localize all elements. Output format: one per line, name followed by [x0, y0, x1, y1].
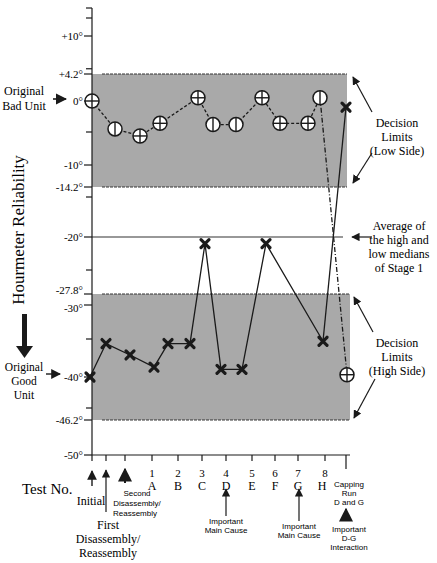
x-tick-letter: E — [248, 479, 255, 493]
low-limits-arrow-down-icon — [353, 153, 372, 183]
bad-unit-point — [255, 91, 269, 105]
first-label-2: Disassembly/ — [76, 532, 141, 546]
average-label-2: the high and — [369, 233, 428, 247]
high-limits-arrow-down-icon — [354, 379, 375, 418]
bad-unit-point — [273, 116, 287, 130]
first-label-3: Reassembly — [79, 546, 137, 560]
capping-label-3: D and G — [334, 498, 364, 507]
second-label-3: Reassembly — [113, 509, 157, 518]
capping-label-2: Run — [342, 489, 357, 498]
x-tick-number: 4 — [223, 467, 229, 479]
x-tick-letter: H — [318, 479, 327, 493]
y-tick-label: +4.2° — [59, 68, 83, 80]
good-unit-label-1: Original — [5, 361, 43, 374]
y-tick-labels: +10°+4.2°0°-10°-14.2°-20°-27.8°-30°-40°-… — [56, 30, 83, 461]
second-label-1: Second — [123, 489, 150, 498]
y-tick-label: -46.2° — [56, 414, 83, 426]
bad-unit-point — [153, 116, 167, 130]
bad-unit-point — [340, 368, 354, 382]
down-arrow-icon — [16, 314, 33, 358]
dg-interaction-label-1: Important — [332, 525, 367, 534]
bad-unit-label-2: Bad Unit — [2, 99, 46, 113]
y-tick-label: 0° — [73, 95, 83, 107]
x-tick-labels: 1A2B3C4D5E6F7G8H — [148, 467, 329, 493]
x-tick-letter: C — [198, 479, 206, 493]
y-tick-label: -50° — [64, 449, 83, 461]
main-cause-g-label-2: Main Cause — [278, 531, 321, 540]
dg-interaction-label-2: D-G — [342, 534, 357, 543]
bad-unit-point — [133, 129, 147, 143]
bad-unit-point — [206, 118, 220, 132]
high-limits-label-2: Limits — [381, 350, 413, 364]
y-tick-label: -30° — [64, 302, 83, 314]
x-tick-letter: F — [272, 479, 279, 493]
x-tick-number: 6 — [272, 467, 278, 479]
test-no-label: Test No. — [22, 481, 73, 497]
good-unit-label-2: Good — [11, 375, 37, 387]
y-tick-label: -27.8° — [56, 284, 83, 296]
high-limits-label-1: Decision — [376, 336, 419, 350]
dg-interaction-label-3: Interaction — [330, 543, 367, 552]
main-cause-g-label-1: Important — [282, 522, 317, 531]
average-label-1: Average of — [373, 219, 426, 233]
y-tick-label: -40° — [64, 371, 83, 383]
average-label-4: of Stage 1 — [375, 261, 424, 275]
low-limits-label-1: Decision — [376, 116, 419, 130]
first-label-1: First — [97, 518, 120, 532]
y-tick-label: -14.2° — [56, 181, 83, 193]
low-limits-arrow-up-icon — [353, 77, 372, 112]
x-tick-number: 1 — [149, 467, 155, 479]
low-limits-label-3: (Low Side) — [370, 144, 424, 158]
bad-unit-point — [85, 94, 99, 108]
x-tick-number: 7 — [295, 467, 301, 479]
high-limits-arrow-up-icon — [354, 297, 373, 332]
capping-label-1: Capping — [334, 480, 364, 489]
main-cause-d-label-1: Important — [209, 517, 244, 526]
main-cause-d-label-2: Main Cause — [205, 526, 248, 535]
hourmeter-reliability-chart: +10°+4.2°0°-10°-14.2°-20°-27.8°-30°-40°-… — [0, 0, 437, 563]
high-limits-label-3: (High Side) — [369, 364, 425, 378]
bad-unit-point — [301, 116, 315, 130]
bad-unit-point — [313, 91, 327, 105]
y-tick-label: -20° — [64, 231, 83, 243]
y-axis-label: Hourmeter Reliability — [9, 155, 28, 305]
bad-unit-label-1: Original — [4, 84, 45, 98]
second-label-2: Disassembly/ — [113, 499, 161, 508]
low-limits-label-2: Limits — [381, 130, 413, 144]
x-tick-letter: B — [174, 479, 182, 493]
bad-unit-point — [229, 118, 243, 132]
bad-unit-point — [191, 91, 205, 105]
x-tick-number: 2 — [175, 467, 181, 479]
average-label-3: low medians — [369, 247, 430, 261]
y-tick-label: -10° — [64, 159, 83, 171]
x-tick-number: 8 — [322, 467, 328, 479]
x-tick-number: 5 — [249, 467, 255, 479]
x-tick-number: 3 — [199, 467, 205, 479]
bad-unit-point — [108, 122, 122, 136]
initial-label: Initial — [77, 494, 106, 508]
good-unit-label-3: Unit — [14, 389, 35, 401]
y-tick-label: +10° — [61, 30, 83, 42]
x-tick-letter: G — [294, 479, 303, 493]
